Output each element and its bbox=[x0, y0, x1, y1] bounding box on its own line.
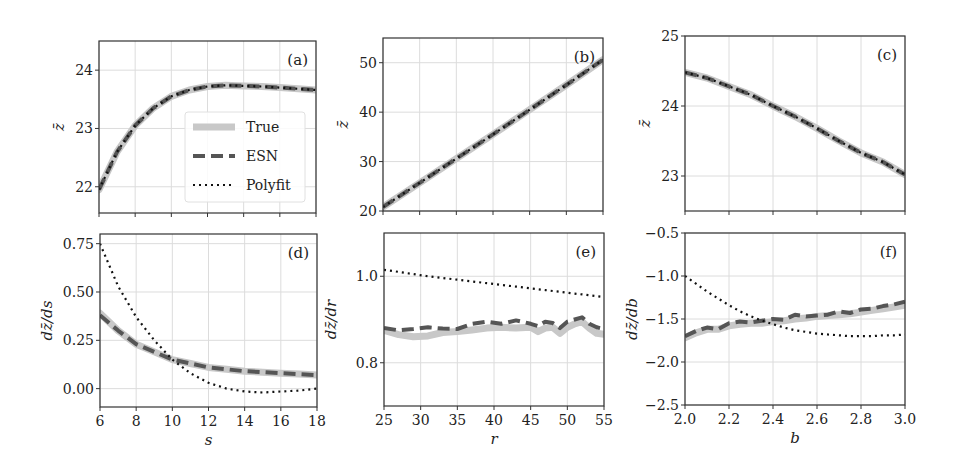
y-axis-label: dz̄/ds bbox=[38, 300, 56, 340]
panel-tag: (a) bbox=[287, 51, 308, 69]
panel-tag: (f) bbox=[880, 243, 897, 261]
x-tick-label: 18 bbox=[308, 413, 326, 429]
x-tick-label: 30 bbox=[412, 412, 430, 428]
x-tick-label: 6 bbox=[96, 413, 105, 429]
x-tick-label: 50 bbox=[558, 412, 576, 428]
grid bbox=[685, 36, 905, 211]
y-tick-label: 0.00 bbox=[63, 381, 94, 397]
y-tick-label: 24 bbox=[661, 98, 679, 114]
y-tick-label: −0.5 bbox=[645, 225, 679, 241]
y-tick-label: 40 bbox=[359, 104, 377, 120]
x-axis-label: b bbox=[790, 429, 800, 447]
x-tick-label: 12 bbox=[200, 413, 218, 429]
x-tick-label: 2.6 bbox=[806, 411, 828, 427]
figure: 222324(a)z̄20304050(b)z̄232425(c)z̄68101… bbox=[0, 0, 955, 467]
x-tick-label: 40 bbox=[485, 412, 503, 428]
y-tick-label: 24 bbox=[75, 62, 93, 78]
y-tick-label: 30 bbox=[359, 154, 377, 170]
x-tick-label: 3.0 bbox=[894, 411, 916, 427]
y-tick-label: 23 bbox=[661, 168, 679, 184]
panel-tag: (b) bbox=[574, 48, 595, 66]
legend-label-true: True bbox=[246, 119, 279, 135]
y-tick-label: 20 bbox=[359, 203, 377, 219]
y-tick-label: 23 bbox=[75, 120, 93, 136]
y-tick-label: 0.50 bbox=[63, 284, 94, 300]
y-axis-label: z̄ bbox=[334, 120, 352, 129]
x-tick-label: 14 bbox=[236, 413, 254, 429]
grid bbox=[384, 233, 604, 406]
panel-b: 20304050(b)z̄ bbox=[334, 38, 603, 219]
legend: TrueESNPolyfit bbox=[185, 112, 305, 202]
y-tick-label: 0.75 bbox=[63, 236, 94, 252]
panel-e: 253035404550550.81.0(e)rdz̄/dr bbox=[322, 233, 613, 448]
y-tick-label: 25 bbox=[661, 28, 679, 44]
y-axis-label: dz̄/db bbox=[623, 298, 641, 340]
x-tick-label: 25 bbox=[375, 412, 393, 428]
y-axis-label: dz̄/dr bbox=[322, 299, 340, 339]
panel-d: 6810121416180.000.250.500.75(d)sdz̄/ds bbox=[38, 234, 326, 449]
x-tick-label: 2.4 bbox=[762, 411, 784, 427]
x-tick-label: 45 bbox=[522, 412, 540, 428]
panel-tag: (e) bbox=[575, 243, 596, 261]
y-tick-label: 22 bbox=[75, 179, 93, 195]
y-tick-label: 0.8 bbox=[356, 355, 378, 371]
x-tick-label: 2.0 bbox=[674, 411, 696, 427]
y-tick-label: −2.0 bbox=[645, 354, 679, 370]
panel-tag: (c) bbox=[877, 46, 897, 64]
y-tick-label: −1.5 bbox=[645, 311, 679, 327]
legend-label-esn: ESN bbox=[246, 148, 278, 164]
y-tick-label: 0.25 bbox=[63, 332, 94, 348]
y-tick-label: −1.0 bbox=[645, 268, 679, 284]
x-tick-label: 10 bbox=[163, 413, 181, 429]
x-axis-label: r bbox=[490, 430, 498, 448]
series-group bbox=[685, 72, 905, 174]
x-tick-label: 2.2 bbox=[718, 411, 740, 427]
panel-c: 232425(c)z̄ bbox=[636, 28, 905, 215]
grid bbox=[100, 234, 317, 407]
x-axis-label: s bbox=[205, 431, 213, 449]
axes-frame bbox=[685, 36, 905, 211]
y-axis-label: z̄ bbox=[50, 123, 68, 132]
panel-f: 2.02.22.42.62.83.0−2.5−2.0−1.5−1.0−0.5(f… bbox=[623, 225, 916, 447]
legend-label-polyfit: Polyfit bbox=[246, 177, 291, 193]
x-tick-label: 16 bbox=[272, 413, 290, 429]
y-tick-label: 50 bbox=[359, 55, 377, 71]
x-tick-label: 35 bbox=[448, 412, 466, 428]
x-tick-label: 2.8 bbox=[850, 411, 872, 427]
x-tick-label: 55 bbox=[595, 412, 613, 428]
series-group bbox=[685, 276, 905, 338]
x-tick-label: 8 bbox=[132, 413, 141, 429]
y-axis-label: z̄ bbox=[636, 119, 654, 128]
y-tick-label: 1.0 bbox=[356, 268, 378, 284]
y-tick-label: −2.5 bbox=[645, 397, 679, 413]
series-true bbox=[685, 305, 905, 338]
panel-tag: (d) bbox=[288, 244, 309, 262]
series-esn bbox=[685, 72, 905, 174]
